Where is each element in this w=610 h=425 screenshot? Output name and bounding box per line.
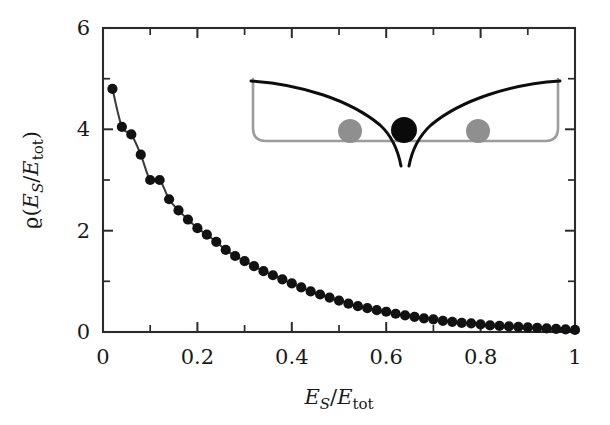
data-point [381, 307, 391, 317]
data-point [334, 295, 344, 305]
x-axis-E-subscript: S [320, 395, 330, 413]
y-axis-open-paren: ( [19, 208, 43, 216]
data-point [457, 318, 467, 328]
data-point [173, 205, 183, 215]
data-point [183, 214, 193, 224]
data-point [221, 245, 231, 255]
data-point [202, 230, 212, 240]
data-point [126, 129, 136, 139]
data-point [136, 150, 146, 160]
data-point [560, 324, 570, 334]
data-point [117, 122, 127, 132]
scatter-plot-figure: 0 0.2 0.4 0.6 0.8 1 0 2 4 6 ϱ(ES/Etot) E… [0, 0, 610, 425]
x-tick-label-5: 1 [568, 345, 581, 369]
y-tick-label-0: 0 [77, 320, 90, 344]
data-point [476, 319, 486, 329]
data-point [494, 321, 504, 331]
data-point [372, 305, 382, 315]
left-atom-icon [338, 119, 362, 143]
data-point [155, 175, 165, 185]
data-point [192, 223, 202, 233]
data-point [287, 278, 297, 288]
data-point [419, 313, 429, 323]
data-point [258, 266, 268, 276]
data-point [249, 261, 259, 271]
data-point [107, 84, 117, 94]
data-point [324, 292, 334, 302]
data-point [230, 251, 240, 261]
data-point [353, 301, 363, 311]
y-tick-label-2: 4 [77, 117, 90, 141]
data-point [343, 299, 353, 309]
data-point [485, 320, 495, 330]
x-axis-E-symbol: E [303, 385, 319, 409]
data-point [504, 321, 514, 331]
data-point [570, 325, 580, 335]
data-point [447, 317, 457, 327]
x-tick-label-0: 0 [96, 345, 109, 369]
x-axis-E2-symbol: E [336, 385, 352, 409]
x-tick-label-2: 0.4 [275, 345, 308, 369]
data-point [551, 324, 561, 334]
data-point [277, 274, 287, 284]
data-point [513, 322, 523, 332]
y-axis-close-paren: ) [19, 131, 43, 139]
y-axis-E-subscript: S [29, 183, 47, 193]
data-point [409, 312, 419, 322]
figure-root: 0 0.2 0.4 0.6 0.8 1 0 2 4 6 ϱ(ES/Etot) E… [0, 0, 610, 425]
y-tick-label-1: 2 [77, 219, 90, 243]
data-point [315, 289, 325, 299]
data-point [466, 318, 476, 328]
data-point [438, 316, 448, 326]
x-tick-label-4: 0.8 [464, 345, 497, 369]
data-point [240, 256, 250, 266]
data-point [532, 323, 542, 333]
x-tick-label-3: 0.6 [369, 345, 402, 369]
data-point [211, 237, 221, 247]
y-axis-E2-subscript: tot [29, 139, 47, 160]
y-axis-E-symbol: E [19, 193, 43, 209]
right-atom-icon [466, 119, 490, 143]
data-point [362, 303, 372, 313]
data-point [391, 309, 401, 319]
data-point [523, 322, 533, 332]
data-point [428, 314, 438, 324]
data-point [164, 194, 174, 204]
data-point [306, 286, 316, 296]
data-point [268, 270, 278, 280]
y-axis-rho-glyph: ϱ [19, 217, 43, 229]
data-point [400, 310, 410, 320]
central-ion-icon [391, 117, 417, 143]
x-axis-E2-subscript: tot [352, 395, 373, 413]
data-point [296, 282, 306, 292]
y-tick-label-3: 6 [77, 16, 90, 40]
data-point [145, 175, 155, 185]
x-tick-label-1: 0.2 [181, 345, 214, 369]
data-point [542, 323, 552, 333]
y-axis-E2-symbol: E [19, 160, 43, 176]
